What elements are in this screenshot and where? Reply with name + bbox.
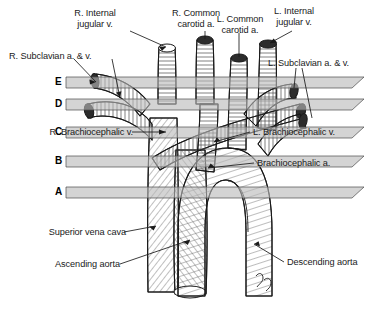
label-l-internal-jugular: L. Internal jugular v.	[256, 6, 332, 28]
level-band-D	[66, 99, 364, 110]
leader-r-internal-jugular	[130, 31, 166, 47]
label-superior-vena-cava: Superior vena cava	[8, 227, 126, 238]
label-r-subclavian: R. Subclavian a. & v.	[9, 51, 92, 62]
label-descending-aorta: Descending aorta	[287, 257, 357, 268]
anatomy-figure: R. Internal jugular v. R. Common carotid…	[0, 0, 379, 315]
section-level-label-B: B	[55, 155, 62, 166]
level-band-A	[66, 187, 364, 198]
section-level-label-E: E	[55, 76, 62, 87]
label-ascending-aorta: Ascending aorta	[8, 259, 120, 270]
section-level-label-A: A	[55, 186, 62, 197]
label-r-brachiocephalic-vein: R. Brachiocephalic v.	[5, 127, 133, 138]
label-r-internal-jugular: R. Internal jugular v.	[58, 8, 132, 30]
section-level-label-C: C	[55, 126, 62, 137]
right-internal-jugular-shape	[158, 48, 176, 104]
level-band-E	[66, 77, 364, 88]
section-level-label-D: D	[55, 98, 62, 109]
label-l-brachiocephalic-vein: L. Brachiocephalic v.	[253, 127, 335, 138]
label-brachiocephalic-artery: Brachiocephalic a.	[257, 158, 330, 169]
label-l-subclavian: L. Subclavian a. & v.	[268, 58, 349, 69]
right-common-carotid-shape	[196, 40, 214, 104]
